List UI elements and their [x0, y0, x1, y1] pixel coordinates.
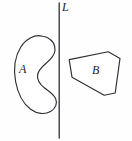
geometry-figure: A B L — [0, 0, 132, 141]
region-a-label: A — [19, 63, 26, 75]
region-b-label: B — [92, 64, 99, 76]
line-l-label: L — [62, 1, 69, 13]
